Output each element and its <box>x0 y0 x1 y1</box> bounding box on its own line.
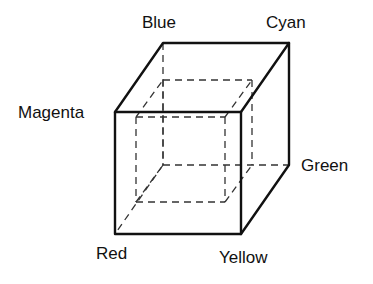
outer-visible-edges <box>115 43 289 234</box>
color-cube-diagram: Blue Cyan Magenta Green Red Yellow <box>0 0 373 284</box>
outer-hidden-edges <box>115 43 289 234</box>
label-cyan: Cyan <box>266 13 306 32</box>
label-blue: Blue <box>142 13 176 32</box>
label-green: Green <box>301 156 348 175</box>
label-magenta: Magenta <box>18 103 85 122</box>
label-yellow: Yellow <box>219 248 268 267</box>
label-red: Red <box>96 244 127 263</box>
inner-cube <box>136 80 252 202</box>
